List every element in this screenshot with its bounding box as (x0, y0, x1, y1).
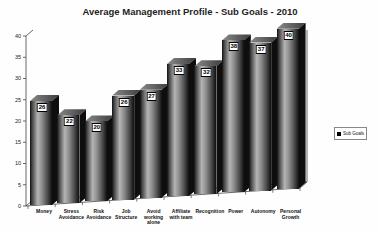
chart: Average Management Profile - Sub Goals -… (0, 0, 380, 232)
bar-value-label: 20 (91, 123, 102, 132)
bar (57, 115, 79, 203)
bar-value-label: 26 (37, 103, 48, 112)
y-tick-label: 15 (3, 139, 21, 145)
bar (222, 40, 244, 192)
category-label: Autonomy (250, 209, 276, 215)
y-tick-label: 5 (3, 182, 21, 188)
category-label: Avoid working alone (141, 209, 167, 226)
bar-value-label: 26 (119, 98, 130, 107)
category-label: Personal Growth (278, 209, 304, 220)
legend-square-marker-icon (337, 132, 341, 136)
bar-value-label: 37 (256, 45, 267, 54)
y-tick-label: 40 (3, 33, 21, 39)
bar (30, 101, 52, 205)
bar (140, 90, 162, 198)
category-label: Recognition (195, 209, 221, 215)
y-tick-label: 10 (3, 160, 21, 166)
y-tick-label: 25 (3, 97, 21, 103)
category-label: Affiliate with team (168, 209, 194, 220)
bar-value-label: 38 (228, 42, 239, 51)
bar-value-label: 40 (283, 31, 294, 40)
bar (277, 29, 299, 189)
depth-edge (26, 30, 33, 36)
bar (194, 66, 216, 194)
category-label: Power (223, 209, 249, 215)
bar-side-face (299, 23, 306, 189)
y-tick-label: 30 (3, 75, 21, 81)
y-tick-label: 35 (3, 54, 21, 60)
bar-value-label: 22 (64, 117, 75, 126)
bar (167, 64, 189, 196)
bar (249, 43, 271, 191)
bar (112, 96, 134, 200)
category-label: Risk Avoidance (86, 209, 112, 220)
legend: Sub Goals (334, 127, 367, 140)
legend-label: Sub Goals (343, 131, 364, 136)
bar (85, 121, 107, 201)
y-tick-label: 0 (3, 203, 21, 209)
bar-value-label: 33 (174, 66, 185, 75)
y-tick-label: 20 (3, 118, 21, 124)
bar-value-label: 32 (201, 68, 212, 77)
category-label: Stress Avoidance (58, 209, 84, 220)
category-label: Money (31, 209, 57, 215)
category-label: Job Structure (113, 209, 139, 220)
bar-value-label: 27 (146, 92, 157, 101)
